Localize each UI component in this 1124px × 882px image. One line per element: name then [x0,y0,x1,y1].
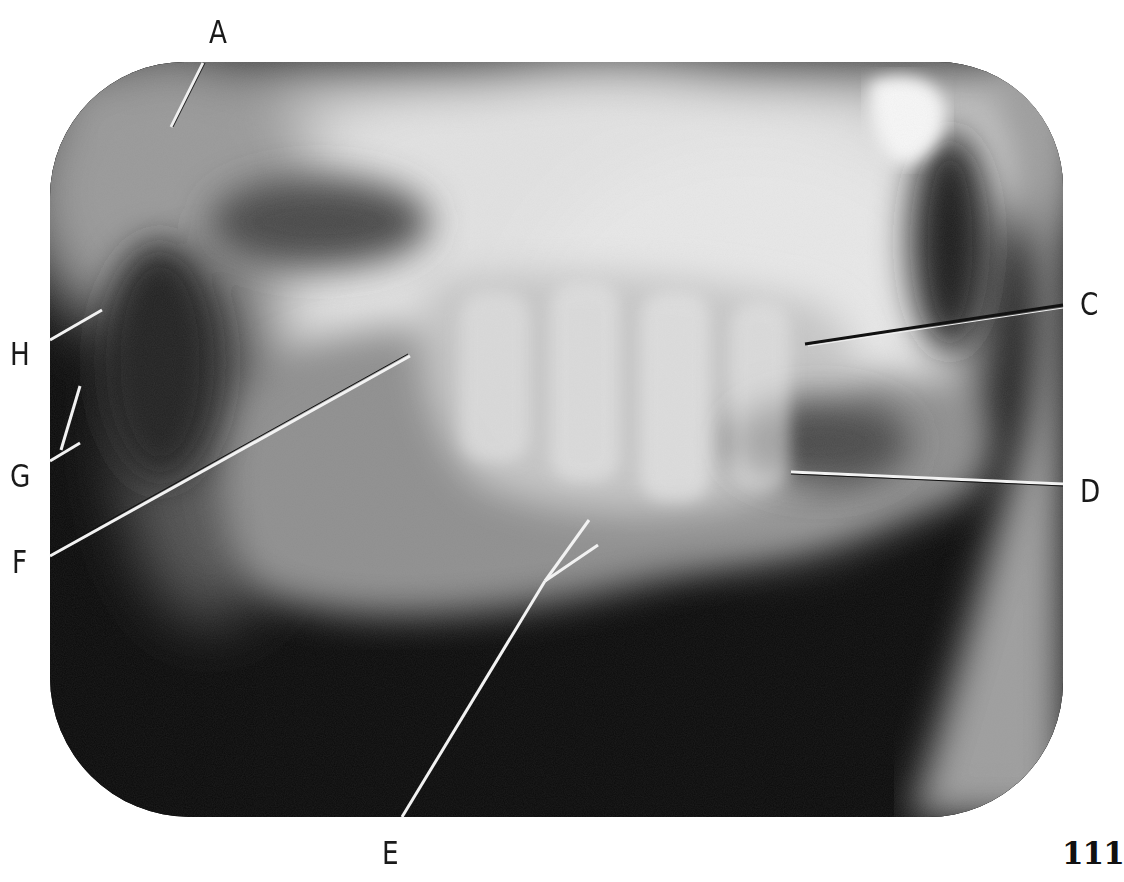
radiograph-image [50,62,1063,817]
page-number: 111 [1062,835,1124,871]
label-a: A [209,16,227,48]
label-g: G [10,460,30,492]
label-e: E [382,837,399,869]
label-c: C [1080,288,1098,320]
label-f: F [12,546,27,578]
label-d: D [1080,475,1100,507]
radiograph-figure [50,62,1063,817]
label-h: H [10,338,30,370]
